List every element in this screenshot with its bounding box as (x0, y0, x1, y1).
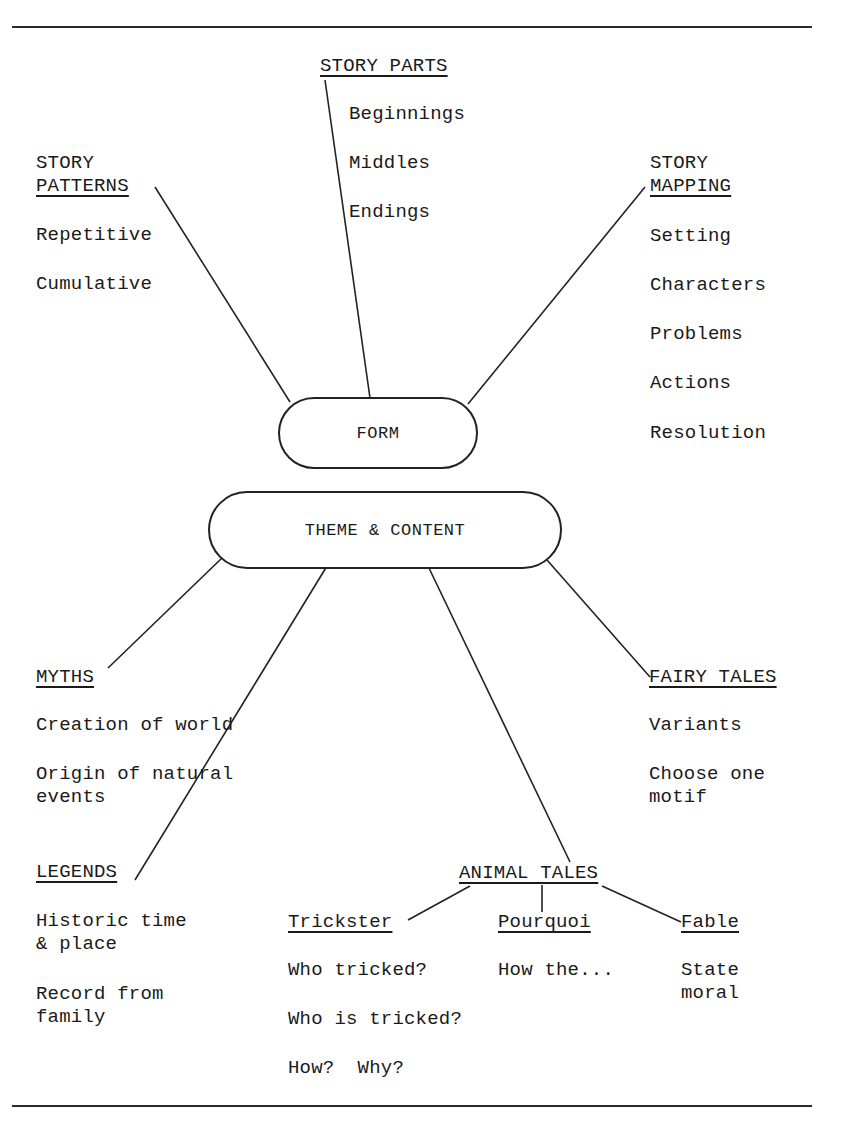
fable-title: Fable (681, 911, 739, 934)
pourquoi-item: How the... (498, 959, 614, 982)
story-patterns-title-line2: PATTERNS (36, 175, 129, 198)
legends-item: Historic time (36, 910, 187, 933)
story-mapping-title-line2: MAPPING (650, 175, 731, 198)
legends-item: & place (36, 933, 117, 956)
fairy-tales-title: FAIRY TALES (649, 666, 777, 689)
fable-item: State (681, 959, 739, 982)
story-parts-item: Endings (349, 201, 430, 224)
myths-item: events (36, 786, 106, 809)
fairy-tales-item: Variants (649, 714, 742, 737)
fable-item: moral (681, 982, 739, 1005)
story-patterns-item: Repetitive (36, 224, 152, 247)
myths-title: MYTHS (36, 666, 94, 689)
animal-tales-title: ANIMAL TALES (459, 862, 598, 885)
legends-item: Record from (36, 983, 164, 1006)
story-mapping-title-line1: STORY (650, 152, 708, 175)
trickster-item: Who tricked? (288, 959, 427, 982)
story-parts-title: STORY PARTS (320, 55, 448, 78)
fairy-tales-item: motif (649, 786, 707, 809)
story-mapping-item: Setting (650, 225, 731, 248)
myths-item: Origin of natural (36, 763, 233, 786)
story-mapping-item: Characters (650, 274, 766, 297)
form-node: FORM (278, 397, 478, 469)
story-mapping-item: Resolution (650, 422, 766, 445)
legends-title: LEGENDS (36, 861, 117, 884)
theme-content-label: THEME & CONTENT (305, 521, 466, 540)
story-patterns-item: Cumulative (36, 273, 152, 296)
legends-item: family (36, 1006, 106, 1029)
story-mapping-item: Problems (650, 323, 743, 346)
trickster-item: Who is tricked? (288, 1008, 462, 1031)
fairy-tales-item: Choose one (649, 763, 765, 786)
trickster-item: How? Why? (288, 1057, 404, 1080)
story-parts-item: Middles (349, 152, 430, 175)
story-parts-item: Beginnings (349, 103, 465, 126)
myths-item: Creation of world (36, 714, 233, 737)
form-label: FORM (357, 424, 400, 443)
story-patterns-title-line1: STORY (36, 152, 94, 175)
pourquoi-title: Pourquoi (498, 911, 591, 934)
trickster-title: Trickster (288, 911, 392, 934)
theme-content-node: THEME & CONTENT (208, 491, 562, 569)
story-mapping-item: Actions (650, 372, 731, 395)
